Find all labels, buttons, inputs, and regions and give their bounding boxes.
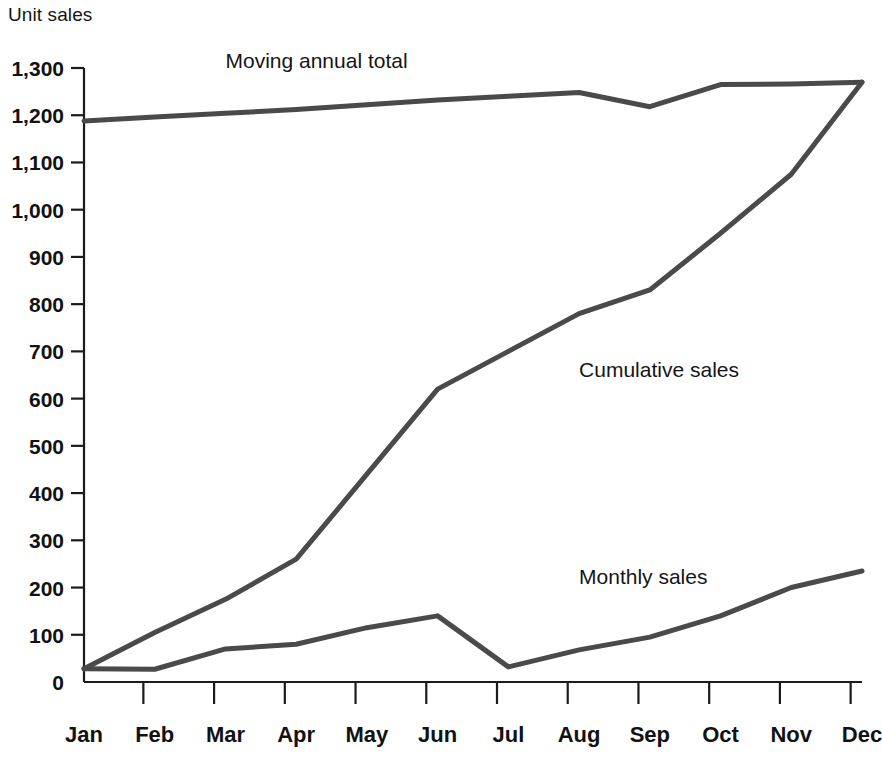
y-tick-label: 0 — [52, 671, 64, 694]
x-tick-label-jun: Jun — [418, 722, 457, 747]
y-tick-label: 300 — [29, 529, 64, 552]
x-tick-label-apr: Apr — [277, 722, 315, 747]
x-tick-label-aug: Aug — [558, 722, 601, 747]
y-tick-label: 1,300 — [11, 57, 64, 80]
x-tick-label-nov: Nov — [770, 722, 812, 747]
chart-container: Unit sales 01002003004005006007008009001… — [0, 0, 882, 761]
series-line-monthly-sales — [84, 571, 862, 669]
y-axis-tick-group: 01002003004005006007008009001,0001,1001,… — [11, 57, 84, 694]
x-tick-label-jul: Jul — [492, 722, 524, 747]
y-tick-label: 700 — [29, 340, 64, 363]
series-line-cumulative-sales — [84, 82, 862, 669]
y-tick-label: 600 — [29, 388, 64, 411]
x-tick-label-mar: Mar — [206, 722, 246, 747]
series-line-moving-annual-total — [84, 82, 862, 121]
x-axis-tick-group: JanFebMarAprMayJunJulAugSepOctNovDec — [65, 682, 882, 747]
series-annotation-moving-annual-total: Moving annual total — [225, 49, 407, 72]
data-series-group — [84, 82, 862, 669]
y-tick-label: 500 — [29, 435, 64, 458]
y-tick-label: 1,100 — [11, 151, 64, 174]
y-tick-label: 900 — [29, 246, 64, 269]
x-tick-label-jan: Jan — [65, 722, 103, 747]
x-tick-label-may: May — [346, 722, 390, 747]
y-tick-label: 1,200 — [11, 104, 64, 127]
y-tick-label: 400 — [29, 482, 64, 505]
series-annotation-monthly-sales: Monthly sales — [579, 565, 707, 588]
y-tick-label: 800 — [29, 293, 64, 316]
y-tick-label: 100 — [29, 624, 64, 647]
x-tick-label-dec: Dec — [842, 722, 882, 747]
x-tick-label-oct: Oct — [702, 722, 739, 747]
y-tick-label: 200 — [29, 577, 64, 600]
series-annotation-group: Moving annual totalCumulative salesMonth… — [225, 49, 739, 588]
x-tick-label-sep: Sep — [630, 722, 670, 747]
x-tick-label-feb: Feb — [135, 722, 174, 747]
chart-plot-area: 01002003004005006007008009001,0001,1001,… — [0, 0, 882, 761]
y-tick-label: 1,000 — [11, 199, 64, 222]
series-annotation-cumulative-sales: Cumulative sales — [579, 358, 739, 381]
